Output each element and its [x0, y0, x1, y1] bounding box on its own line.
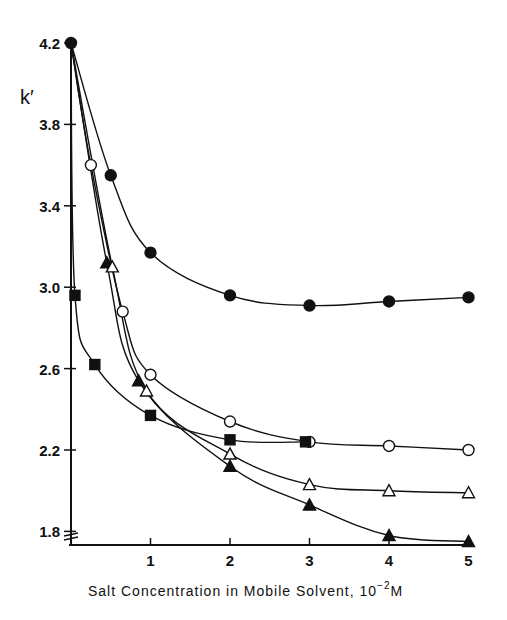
marker-filled-circle	[384, 296, 395, 307]
y-axis-label: k′	[20, 86, 34, 108]
marker-filled-square	[90, 360, 100, 370]
y-tick-label: 1.8	[39, 523, 60, 540]
marker-filled-square	[146, 410, 156, 420]
marker-open-circle	[225, 416, 236, 427]
marker-filled-circle	[66, 38, 77, 49]
marker-open-circle	[85, 160, 96, 171]
marker-filled-circle	[225, 290, 236, 301]
marker-open-circle	[145, 369, 156, 380]
series-line-filled-circle	[71, 43, 469, 306]
x-tick-label: 4	[385, 552, 394, 569]
x-axis-title-unit: M	[390, 583, 403, 599]
x-tick-label: 1	[146, 552, 154, 569]
marker-filled-triangle	[133, 375, 145, 386]
data-markers	[66, 38, 475, 547]
chart: 1.82.22.63.03.43.84.2 12345 k′ Salt Conc…	[0, 0, 507, 620]
marker-filled-circle	[304, 300, 315, 311]
x-axis-title: Salt Concentration in Mobile Solvent, 10…	[88, 580, 403, 599]
x-axis-title-exponent: −2	[377, 580, 390, 591]
marker-open-circle	[117, 306, 128, 317]
marker-open-circle	[384, 440, 395, 451]
series-line-open-circle	[71, 43, 469, 450]
marker-filled-square	[70, 290, 80, 300]
marker-open-triangle	[224, 448, 236, 459]
y-tick-label: 4.2	[39, 35, 60, 52]
x-ticks: 12345	[146, 538, 472, 569]
x-axis-title-main: Salt Concentration in Mobile Solvent, 10	[88, 583, 377, 599]
marker-filled-square	[301, 437, 311, 447]
x-tick-label: 3	[305, 552, 313, 569]
data-curves	[71, 43, 469, 542]
marker-filled-triangle	[224, 460, 236, 471]
marker-filled-circle	[105, 170, 116, 181]
marker-filled-triangle	[304, 499, 316, 510]
marker-filled-square	[225, 435, 235, 445]
series-line-open-triangle	[71, 43, 469, 493]
axes	[69, 43, 470, 545]
series-line-filled-triangle	[71, 43, 469, 542]
y-ticks: 1.82.22.63.03.43.84.2	[39, 35, 78, 540]
marker-filled-circle	[145, 247, 156, 258]
marker-open-circle	[463, 445, 474, 456]
y-tick-label: 2.6	[39, 361, 60, 378]
y-tick-label: 3.8	[39, 116, 60, 133]
y-tick-label: 3.4	[39, 198, 61, 215]
x-tick-label: 2	[226, 552, 234, 569]
y-tick-label: 2.2	[39, 442, 60, 459]
x-tick-label: 5	[464, 552, 472, 569]
marker-filled-circle	[463, 292, 474, 303]
y-tick-label: 3.0	[39, 279, 60, 296]
